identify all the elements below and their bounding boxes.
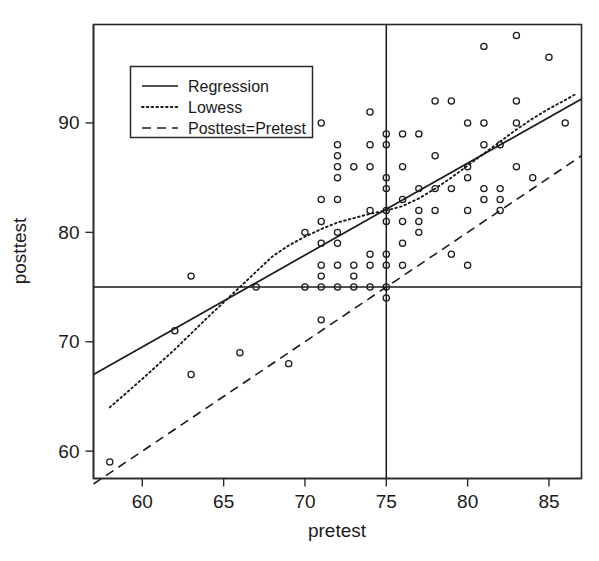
data-point <box>497 186 503 192</box>
data-point <box>318 317 324 323</box>
data-point <box>497 196 503 202</box>
data-point <box>107 459 113 465</box>
x-tick-label: 70 <box>294 491 315 512</box>
data-point <box>465 262 471 268</box>
x-tick-label: 80 <box>457 491 478 512</box>
y-axis: 60708090 <box>58 25 93 479</box>
data-point <box>399 164 405 170</box>
data-point <box>367 262 373 268</box>
data-point <box>334 142 340 148</box>
x-tick-label: 75 <box>376 491 397 512</box>
data-point <box>513 164 519 170</box>
data-point <box>302 229 308 235</box>
data-point <box>416 229 422 235</box>
data-point <box>448 251 454 257</box>
data-point <box>448 186 454 192</box>
x-tick-label: 65 <box>213 491 234 512</box>
data-point <box>318 196 324 202</box>
x-tick-label: 85 <box>538 491 559 512</box>
legend-label: Lowess <box>188 99 242 116</box>
data-point <box>318 120 324 126</box>
y-axis-title: posttest <box>9 217 30 284</box>
data-point <box>416 207 422 213</box>
data-point <box>416 218 422 224</box>
y-tick-label: 60 <box>58 441 79 462</box>
scatter-plot-figure: 606570758085 60708090 pretest posttest R… <box>0 0 599 561</box>
data-point <box>481 142 487 148</box>
data-point <box>481 120 487 126</box>
data-point <box>351 164 357 170</box>
data-point <box>318 273 324 279</box>
data-point <box>481 43 487 49</box>
data-point <box>546 54 552 60</box>
data-point <box>513 98 519 104</box>
data-point <box>334 262 340 268</box>
data-point <box>432 153 438 159</box>
legend-label: Posttest=Pretest <box>188 120 306 137</box>
data-point <box>399 262 405 268</box>
data-point <box>562 120 568 126</box>
data-point <box>334 164 340 170</box>
data-point <box>286 361 292 367</box>
data-point <box>237 350 243 356</box>
legend: RegressionLowessPosttest=Pretest <box>131 67 313 138</box>
data-point <box>367 142 373 148</box>
data-point <box>367 251 373 257</box>
data-point <box>399 131 405 137</box>
data-point <box>530 175 536 181</box>
data-point <box>481 196 487 202</box>
data-point <box>334 175 340 181</box>
x-axis: 606570758085 <box>94 479 582 512</box>
legend-label: Regression <box>188 78 269 95</box>
data-point <box>465 207 471 213</box>
series-regression <box>94 99 582 375</box>
x-tick-label: 60 <box>132 491 153 512</box>
x-axis-title: pretest <box>308 520 367 541</box>
data-point <box>367 109 373 115</box>
data-point <box>465 120 471 126</box>
data-point <box>481 186 487 192</box>
y-tick-label: 90 <box>58 112 79 133</box>
plot-canvas: 606570758085 60708090 pretest posttest R… <box>0 0 599 561</box>
y-tick-label: 80 <box>58 222 79 243</box>
data-point <box>416 131 422 137</box>
y-tick-label: 70 <box>58 331 79 352</box>
data-point <box>334 240 340 246</box>
data-point <box>334 153 340 159</box>
data-point <box>399 240 405 246</box>
data-point <box>351 273 357 279</box>
data-point <box>334 196 340 202</box>
data-point <box>318 262 324 268</box>
data-point <box>513 120 519 126</box>
data-point <box>188 371 194 377</box>
data-point <box>399 218 405 224</box>
data-point <box>465 175 471 181</box>
data-point <box>318 218 324 224</box>
data-point <box>432 98 438 104</box>
series-posttest-pretest <box>94 156 582 484</box>
data-point <box>367 164 373 170</box>
data-point <box>351 262 357 268</box>
data-point <box>448 98 454 104</box>
data-point <box>188 273 194 279</box>
data-point <box>513 32 519 38</box>
data-point <box>432 207 438 213</box>
